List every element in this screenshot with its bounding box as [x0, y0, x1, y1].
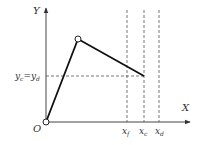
- peak-node: [75, 36, 81, 42]
- x-c-label: xc: [139, 126, 148, 137]
- origin-label: O: [33, 123, 41, 134]
- origin-node: [43, 119, 49, 125]
- diagram-canvas: Y X O yc=yd xf xc xd: [0, 0, 202, 145]
- path-polyline: [46, 39, 144, 122]
- guide-y-label: yc=yd: [14, 71, 40, 82]
- x-axis-label: X: [181, 102, 190, 113]
- x-d-label: xd: [155, 126, 164, 137]
- y-axis-label: Y: [33, 5, 41, 16]
- x-f-label: xf: [122, 126, 131, 138]
